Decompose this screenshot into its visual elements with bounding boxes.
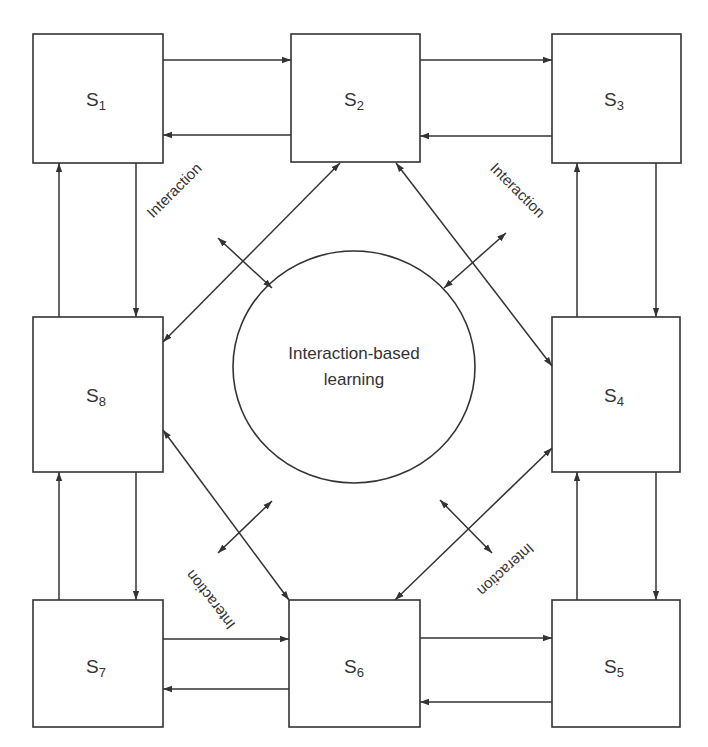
node-label-s7: S7 <box>86 656 106 680</box>
node-subscript: 2 <box>357 98 364 113</box>
center-label-line1: Interaction-based <box>288 341 419 367</box>
node-letter: S <box>604 656 617 677</box>
arrow-s8-s2 <box>163 163 340 342</box>
node-label-s2: S2 <box>344 89 364 113</box>
interaction-arrow-top-right <box>444 233 506 288</box>
interaction-arrow-bottom-left <box>218 501 272 553</box>
node-label-s8: S8 <box>86 385 106 409</box>
interaction-arrow-bottom-right <box>440 500 492 553</box>
center-label-line2: learning <box>288 367 419 393</box>
node-label-s6: S6 <box>344 656 364 680</box>
node-label-s4: S4 <box>604 385 624 409</box>
node-subscript: 1 <box>99 98 106 113</box>
node-letter: S <box>344 656 357 677</box>
node-label-s1: S1 <box>86 89 106 113</box>
node-label-s5: S5 <box>604 656 624 680</box>
interaction-arrow-top-left <box>218 238 272 288</box>
node-letter: S <box>344 89 357 110</box>
node-letter: S <box>604 89 617 110</box>
node-subscript: 3 <box>617 98 624 113</box>
node-letter: S <box>86 385 99 406</box>
node-subscript: 7 <box>99 665 106 680</box>
node-label-s3: S3 <box>604 89 624 113</box>
center-label: Interaction-based learning <box>288 341 419 393</box>
node-subscript: 6 <box>357 665 364 680</box>
node-subscript: 8 <box>99 394 106 409</box>
arrow-s8-s6 <box>163 430 289 600</box>
node-subscript: 5 <box>617 665 624 680</box>
node-letter: S <box>604 385 617 406</box>
node-letter: S <box>86 656 99 677</box>
node-subscript: 4 <box>617 394 624 409</box>
arrow-s4-s6 <box>395 448 552 600</box>
node-letter: S <box>86 89 99 110</box>
